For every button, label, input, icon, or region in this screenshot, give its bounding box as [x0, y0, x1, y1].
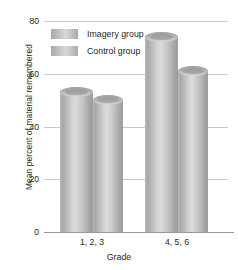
bar-imagery-grades-1-2-3	[60, 92, 93, 232]
y-tick-label-0: 0	[34, 227, 39, 237]
gridline-80: 80	[44, 21, 228, 22]
axis-baseline-0: 0	[44, 232, 234, 233]
x-tick-label-grades-4-5-6: 4, 5, 6	[165, 237, 189, 247]
legend-label-control-group: Control group	[87, 46, 140, 56]
legend-swatch-icon	[51, 46, 78, 56]
bar-cap-shadow	[150, 34, 174, 40]
legend-label-imagery-group: Imagery group	[87, 29, 144, 39]
legend-swatch-icon	[51, 29, 78, 39]
y-tick-label-20: 20	[29, 174, 39, 184]
x-tick-label-grades-1-2-3: 1, 2, 3	[80, 237, 104, 247]
y-tick-label-80: 80	[29, 16, 39, 26]
bar-imagery-grades-4-5-6	[145, 37, 178, 232]
legend-item-imagery-group: Imagery group	[51, 29, 144, 39]
bar-control-grades-1-2-3	[93, 100, 123, 232]
y-tick-label-60: 60	[29, 69, 39, 79]
y-tick-label-40: 40	[29, 122, 39, 132]
chart-legend: Imagery group Control group	[51, 29, 144, 63]
legend-item-control-group: Control group	[51, 46, 144, 56]
bar-control-grades-4-5-6	[178, 71, 208, 232]
bar-chart: Mean percent of material remembered 80 6…	[0, 0, 238, 270]
x-axis-title: Grade	[0, 252, 238, 262]
